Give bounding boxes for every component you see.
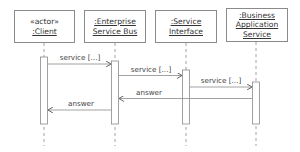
- participant-name-line-1: :Enterprise: [94, 17, 136, 27]
- sequence-diagram: «actor» :Client :Enterprise Service Bus …: [0, 0, 300, 152]
- participant-client: «actor» :Client: [14, 10, 75, 43]
- message-label-3: service [...]: [201, 76, 242, 85]
- participant-name-line-2: Service Bus: [93, 27, 137, 37]
- message-label-2: service [...]: [131, 65, 172, 74]
- activation-client: [41, 57, 48, 124]
- participant-stereotype: «actor»: [30, 17, 59, 27]
- participant-name-line-2: Interface: [169, 27, 203, 37]
- return-label-1: answer: [136, 88, 162, 97]
- participant-service-interface: :Service Interface: [155, 10, 217, 43]
- participant-enterprise-service-bus: :Enterprise Service Bus: [84, 10, 146, 43]
- message-label-1: service [...]: [60, 53, 101, 62]
- activation-business-application-service: [253, 82, 260, 124]
- participant-name-line-1: :Service: [171, 17, 202, 27]
- activation-service-interface: [183, 70, 190, 124]
- participant-name-line-3: Service: [243, 30, 271, 40]
- participant-name-line-1: :Business: [239, 11, 275, 21]
- activation-esb: [112, 61, 119, 124]
- participant-name: :Client: [32, 27, 57, 37]
- return-label-2: answer: [68, 99, 94, 108]
- participant-business-application-service: :Business Application Service: [226, 8, 288, 42]
- participant-name-line-2: Application: [236, 20, 278, 30]
